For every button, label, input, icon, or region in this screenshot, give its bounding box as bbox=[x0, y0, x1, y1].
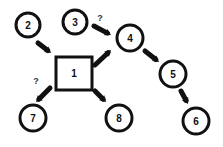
edge-label: ? bbox=[97, 13, 103, 23]
node-2: 2 bbox=[16, 13, 40, 37]
node-label: 5 bbox=[170, 69, 176, 80]
node-8: 8 bbox=[106, 105, 132, 131]
node-1: 1 bbox=[56, 57, 92, 90]
node-label: 1 bbox=[71, 68, 77, 79]
edge-4-to-5 bbox=[145, 51, 159, 62]
edge-3-to-4: ? bbox=[94, 13, 111, 35]
edge-1-to-7: ? bbox=[33, 76, 50, 102]
arrow-shaft bbox=[95, 53, 108, 65]
edge-label: ? bbox=[33, 76, 39, 86]
edge-1-to-8 bbox=[95, 91, 106, 102]
arrow-shaft bbox=[39, 88, 50, 99]
edge-2-to-1 bbox=[38, 43, 51, 53]
node-3: 3 bbox=[63, 10, 87, 34]
node-label: 7 bbox=[30, 113, 36, 124]
node-5: 5 bbox=[160, 61, 186, 87]
arrow-shaft bbox=[145, 51, 156, 60]
node-label: 2 bbox=[25, 20, 31, 31]
node-6: 6 bbox=[183, 108, 209, 134]
arrow-shaft bbox=[94, 26, 107, 33]
nodes-layer: 12345678 bbox=[16, 10, 209, 134]
flow-diagram: ?? 12345678 bbox=[0, 0, 223, 147]
node-label: 6 bbox=[193, 116, 199, 127]
node-label: 3 bbox=[72, 17, 78, 28]
node-7: 7 bbox=[20, 105, 46, 131]
edge-5-to-6 bbox=[181, 91, 188, 104]
node-label: 8 bbox=[116, 113, 122, 124]
node-label: 4 bbox=[127, 33, 133, 44]
edge-1-to-4 bbox=[95, 50, 111, 65]
node-4: 4 bbox=[117, 25, 143, 51]
